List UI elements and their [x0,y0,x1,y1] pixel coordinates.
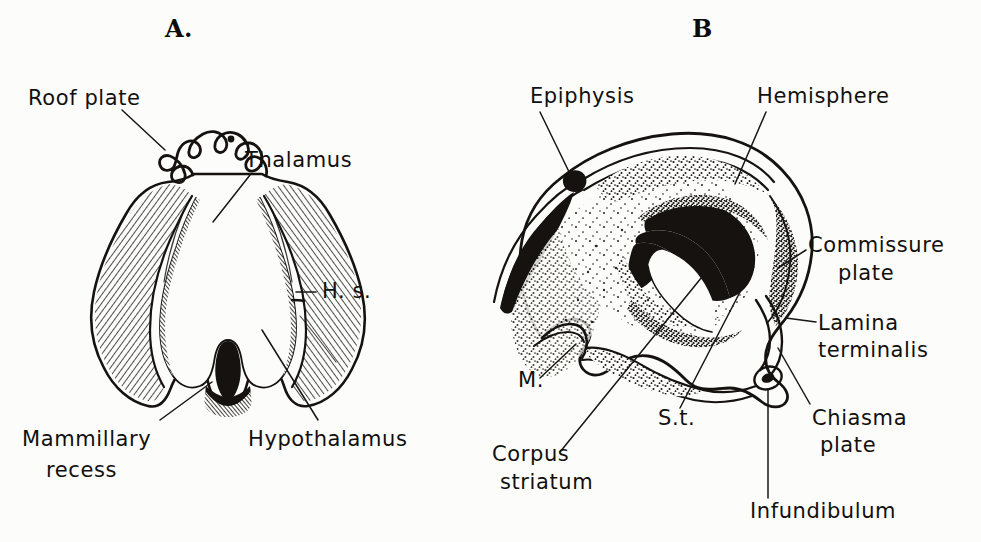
label-mammillary-recess-line2: recess [46,458,117,482]
label-corpus-striatum-line1: Corpus [492,442,569,466]
hypothalamic-sulcus-mark [292,300,304,301]
figure-canvas: A. [0,0,981,542]
label-chiasma-plate-line2: plate [820,433,876,457]
label-infundibulum: Infundibulum [750,499,896,523]
label-mammillary-recess-line1: Mammillary [22,427,151,451]
label-lamina-terminalis-line1: Lamina [818,311,899,335]
label-chiasma-plate-line1: Chiasma [812,406,907,430]
label-corpus-striatum-line2: striatum [500,470,593,494]
label-commissure-plate-line2: plate [838,261,894,285]
label-hypothalamus: Hypothalamus [248,427,407,451]
label-epiphysis: Epiphysis [530,84,635,108]
label-hs: H. s. [322,279,371,303]
label-commissure-plate-line1: Commissure [808,233,945,257]
panel-a-letter: A. [164,14,193,43]
label-lamina-terminalis-line2: terminalis [818,338,929,362]
anatomical-figure: A. [0,0,981,542]
label-thalamus: Thalamus [244,148,352,172]
label-st: S.t. [658,406,695,430]
panel-b-letter: B [692,14,713,43]
label-m: M. [518,368,544,392]
label-hemisphere: Hemisphere [757,84,890,108]
epiphysis-knob [563,170,587,192]
label-roof-plate: Roof plate [28,86,141,110]
roof-plate-node [228,136,235,143]
